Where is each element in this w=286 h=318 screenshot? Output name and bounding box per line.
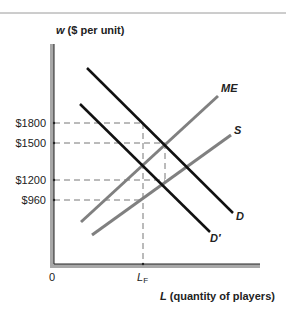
y-axis-title: w ($ per unit) — [56, 24, 125, 36]
label-S: S — [234, 124, 242, 136]
label-D-prime: D′ — [210, 232, 222, 244]
origin-label: 0 — [49, 271, 55, 283]
y-axis-shade — [50, 44, 54, 266]
y-tick-label: $1200 — [15, 174, 46, 186]
y-tick-label: $960 — [22, 194, 46, 206]
y-tick-label: $1500 — [15, 137, 46, 149]
label-ME: ME — [221, 82, 238, 94]
label-D: D — [236, 210, 244, 222]
chart-canvas: w ($ per unit) $1800 $1500 $1200 $960 0 … — [0, 0, 286, 318]
x-axis-title: L (quantity of players) — [160, 290, 275, 302]
y-tick-label: $1800 — [15, 117, 46, 129]
x-tick-label-LF: LF — [137, 271, 148, 285]
curve-D — [87, 68, 233, 213]
x-axis-shade — [50, 264, 260, 268]
x-tick-mark — [142, 263, 144, 265]
